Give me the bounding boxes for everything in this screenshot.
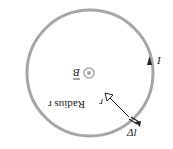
current-element-label: Δl <box>126 126 137 138</box>
current-label: I <box>156 55 162 67</box>
radius-label: Radius r <box>48 99 85 111</box>
magnetic-field-out-of-page-icon <box>84 68 94 78</box>
field-label: B <box>73 67 80 79</box>
position-vector-label: r <box>99 97 103 108</box>
position-vector-line <box>109 97 129 117</box>
diagram-canvas: B I r Δl Radius r <box>0 0 173 149</box>
